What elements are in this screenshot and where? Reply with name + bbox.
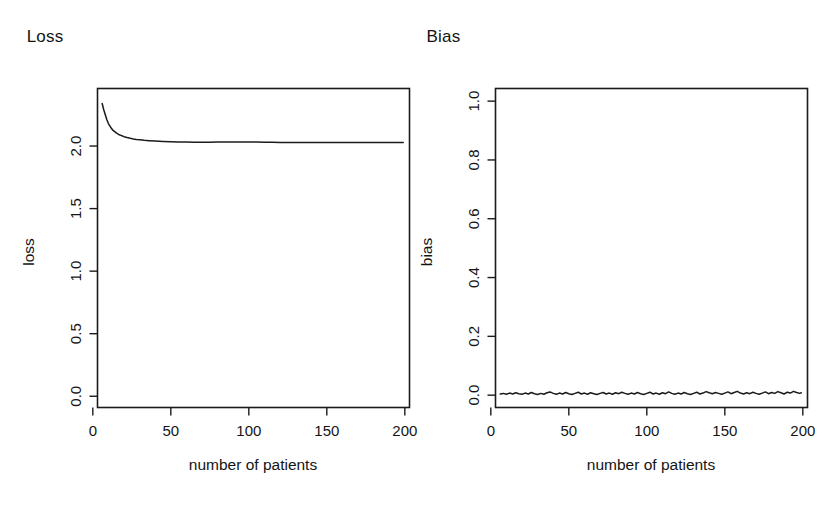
bias-y-axis-title: bias	[418, 238, 435, 267]
loss-x-tick-labels: 050100150200	[89, 422, 418, 439]
x-tick-label: 150	[314, 422, 339, 439]
bias-plot-group: 050100150200 0.00.20.40.60.81.0 number o…	[418, 89, 815, 474]
bias-x-tick-marks	[491, 408, 803, 416]
y-tick-label: 0.0	[67, 386, 84, 407]
x-tick-label: 0	[487, 422, 495, 439]
y-tick-label: 1.0	[465, 91, 482, 112]
y-tick-label: 0.0	[465, 385, 482, 406]
x-tick-label: 100	[634, 422, 659, 439]
figure-canvas: Loss Bias 050100150200 0.00.51.01.52.0 n…	[0, 0, 833, 512]
loss-x-tick-marks	[93, 408, 405, 416]
y-tick-label: 0.2	[465, 326, 482, 347]
y-tick-label: 1.0	[67, 261, 84, 282]
x-tick-label: 100	[236, 422, 261, 439]
x-tick-label: 50	[162, 422, 179, 439]
loss-y-axis-title: loss	[20, 238, 37, 266]
x-tick-label: 0	[89, 422, 97, 439]
y-tick-label: 0.4	[465, 267, 482, 288]
bias-plot-frame	[496, 89, 808, 408]
y-tick-label: 0.5	[67, 323, 84, 344]
y-tick-label: 0.8	[465, 150, 482, 171]
bias-x-tick-labels: 050100150200	[487, 422, 816, 439]
loss-plot-frame	[98, 89, 410, 408]
loss-y-tick-marks	[90, 146, 98, 396]
x-tick-label: 150	[712, 422, 737, 439]
y-tick-label: 0.6	[465, 208, 482, 229]
loss-x-axis-title: number of patients	[189, 456, 318, 473]
x-tick-label: 50	[560, 422, 577, 439]
x-tick-label: 200	[392, 422, 417, 439]
loss-data-line	[102, 104, 403, 143]
bias-y-tick-marks	[488, 101, 496, 395]
bias-y-tick-labels: 0.00.20.40.60.81.0	[465, 91, 482, 406]
loss-plot-group: 050100150200 0.00.51.01.52.0 number of p…	[20, 89, 417, 474]
x-tick-label: 200	[790, 422, 815, 439]
y-tick-label: 1.5	[67, 198, 84, 219]
bias-x-axis-title: number of patients	[587, 456, 716, 473]
plot-svg: 050100150200 0.00.51.01.52.0 number of p…	[0, 0, 833, 512]
y-tick-label: 2.0	[67, 136, 84, 157]
loss-y-tick-labels: 0.00.51.01.52.0	[67, 136, 84, 407]
bias-data-line	[500, 391, 801, 394]
